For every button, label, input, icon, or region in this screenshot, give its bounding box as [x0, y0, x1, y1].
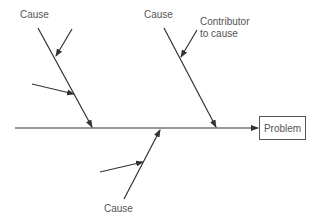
cause-label-top-left: Cause: [20, 9, 49, 21]
contributor-arrow: [181, 30, 197, 57]
contributor-label-line1: Contributor: [200, 16, 249, 28]
sub-arrow-bottom: [100, 162, 143, 172]
diagram-lines: [0, 0, 318, 224]
cause-label-top-right: Cause: [144, 9, 173, 21]
fishbone-diagram: Cause Cause Contributor to cause Cause P…: [0, 0, 318, 224]
problem-box: Problem: [259, 116, 306, 140]
sub-arrow-top-left-1: [56, 29, 72, 56]
sub-arrow-top-left-2: [32, 84, 74, 94]
bone-top-left: [38, 28, 92, 127]
bone-bottom: [124, 130, 160, 199]
cause-label-bottom: Cause: [104, 203, 133, 215]
contributor-label-line2: to cause: [200, 28, 238, 40]
problem-label: Problem: [264, 123, 301, 134]
